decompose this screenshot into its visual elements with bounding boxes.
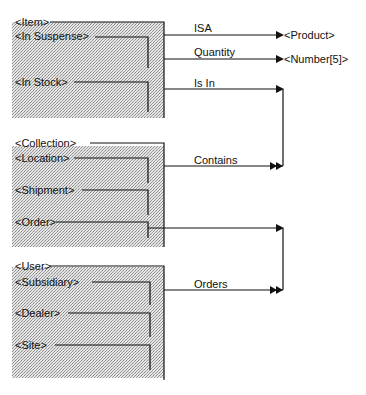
relationship-isa-label: ISA [194,22,212,34]
target-product-label: <Product> [284,29,335,41]
subtype-in-stock-label: <In Stock> [15,76,68,88]
subtype-site-label: <Site> [15,339,47,351]
subtype-in-suspense-label: <In Suspense> [15,30,89,42]
entity-user-label: <User> [15,260,51,272]
subtype-location-label: <Location> [15,152,69,164]
relationship-quantity-label: Quantity [194,46,235,58]
target-number-label: <Number[5]> [284,53,348,65]
subtype-subsidiary-label: <Subsidiary> [15,276,79,288]
subtype-order-label: <Order> [15,216,56,228]
relationship-is-in-label: Is In [194,77,215,89]
subtype-shipment-label: <Shipment> [15,184,74,196]
entity-item-label: <Item> [15,16,49,28]
relationship-contains-label: Contains [194,154,237,166]
subtype-dealer-label: <Dealer> [15,307,60,319]
isa-relationship-line [164,31,284,39]
entity-collection-label: <Collection> [15,137,76,149]
relationship-orders-label: Orders [194,278,228,290]
